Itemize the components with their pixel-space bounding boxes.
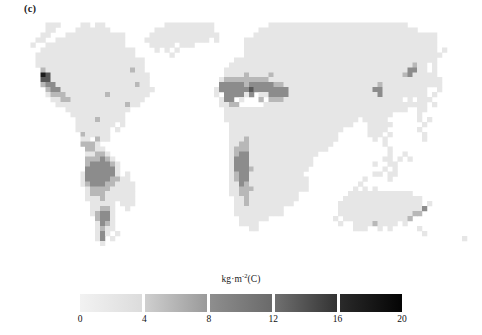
colorbar-segment-4 [275, 294, 337, 312]
map-container [26, 18, 472, 246]
colorbar-strip [80, 294, 402, 312]
colorbar-tick-4: 4 [129, 314, 159, 324]
panel-label: (c) [24, 3, 36, 14]
colorbar-title-main: kg·m [221, 274, 241, 284]
colorbar-segment-3 [210, 294, 272, 312]
colorbar-segment-5 [340, 294, 402, 312]
global-gridded-heatmap [26, 18, 472, 246]
colorbar-segment-1 [80, 294, 142, 312]
colorbar-tick-20: 20 [387, 314, 417, 324]
colorbar-title-suffix: (C) [248, 274, 261, 284]
colorbar-tick-labels: 048121620 [0, 314, 482, 330]
colorbar-tick-16: 16 [323, 314, 353, 324]
colorbar-tick-8: 8 [194, 314, 224, 324]
colorbar-tick-0: 0 [65, 314, 95, 324]
colorbar-legend: kg·m-2(C) 048121620 [0, 272, 482, 335]
figure-panel: (c) kg·m-2(C) 048121620 [0, 0, 482, 335]
colorbar-tick-12: 12 [258, 314, 288, 324]
colorbar-segment-2 [145, 294, 207, 312]
colorbar-title: kg·m-2(C) [0, 272, 482, 284]
